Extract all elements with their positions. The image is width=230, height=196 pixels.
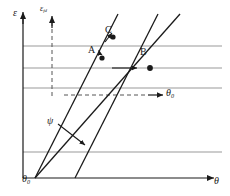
point-b-label: B bbox=[140, 47, 147, 57]
grid-lines bbox=[23, 46, 222, 152]
point-b-marker bbox=[147, 65, 153, 71]
theta-zero-mid-label: θ0 bbox=[166, 88, 174, 99]
figure-container: ε εfd C A B θ0 ψ θ0 θ bbox=[0, 0, 230, 196]
epsilon-fd-label: εfd bbox=[40, 5, 47, 14]
psi-leader-arrow bbox=[58, 124, 85, 145]
steep-line-left bbox=[35, 14, 118, 178]
point-c-marker bbox=[110, 34, 115, 39]
point-c-label: C bbox=[105, 25, 112, 35]
epsilon-axis-label: ε bbox=[13, 8, 17, 18]
callout-arrows bbox=[58, 33, 137, 145]
steep-line-right bbox=[75, 14, 158, 178]
diagram-canvas bbox=[0, 0, 230, 196]
point-a-marker bbox=[99, 55, 104, 60]
theta-zero-origin-label: θ0 bbox=[22, 174, 30, 185]
theta-axis-label: θ bbox=[214, 176, 219, 186]
psi-angle-label: ψ bbox=[47, 116, 53, 126]
point-a-label: A bbox=[88, 45, 95, 55]
